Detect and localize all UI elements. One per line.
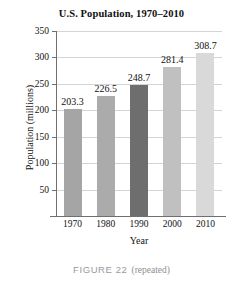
y-axis-tick-label: 250 [35,79,49,89]
y-axis-tick-label: 100 [35,158,49,168]
y-axis-tick-label: 300 [35,52,49,62]
bar-value-label: 203.3 [61,96,84,107]
bar: 281.4 [163,67,181,216]
gridline [56,31,222,32]
bar: 248.7 [130,85,148,216]
y-axis-tick-label: 50 [40,185,50,195]
x-axis-tick-label: 2010 [196,219,215,229]
bar-value-label: 226.5 [95,83,118,94]
x-axis-tick-label: 1990 [130,219,149,229]
bar: 308.7 [196,53,214,216]
y-axis-line [56,31,57,216]
x-axis-tick-label: 1980 [96,219,115,229]
chart-title: U.S. Population, 1970–2010 [0,8,243,19]
y-axis-tick-label: 350 [35,26,49,36]
x-axis-line [50,216,226,217]
figure-caption-note: (repeated) [132,265,171,275]
y-axis-tick-label: 150 [35,132,49,142]
y-axis-title: Population (millions) [24,43,35,213]
plot-area: 50100150200250300350 203.3226.5248.7281.… [56,31,222,216]
figure-container: U.S. Population, 1970–2010 Population (m… [0,0,243,281]
bar: 226.5 [97,96,115,216]
x-axis-tick-label: 2000 [163,219,182,229]
bar-value-label: 308.7 [194,40,217,51]
figure-caption: FIGURE 22(repeated) [0,259,243,277]
bar-value-label: 281.4 [161,54,184,65]
bar: 203.3 [64,109,82,216]
bar-value-label: 248.7 [128,72,151,83]
y-axis-tick-label: 200 [35,105,49,115]
x-axis-tick-label: 1970 [63,219,82,229]
figure-caption-label: FIGURE 22 [73,264,128,275]
x-axis-title: Year [56,235,222,246]
